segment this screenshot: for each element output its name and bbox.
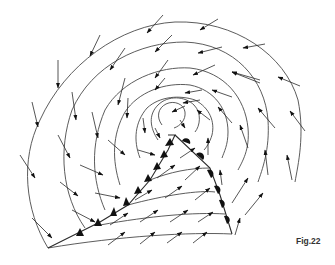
figure-caption: Fig.22 — [296, 236, 321, 246]
warm-front — [175, 135, 232, 234]
cyclone-diagram — [0, 0, 335, 265]
isobars — [28, 22, 302, 248]
